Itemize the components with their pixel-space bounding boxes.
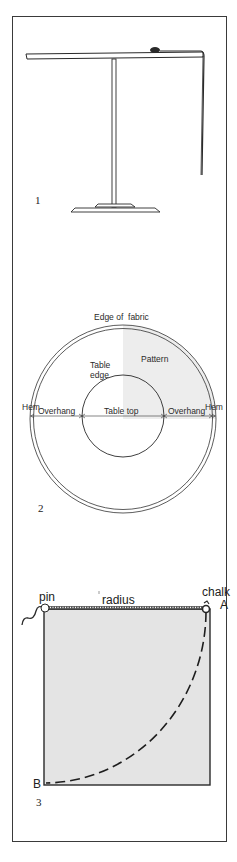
- label-point-b: B: [33, 777, 41, 791]
- label-point-a: A: [220, 598, 228, 612]
- label-overhang-left: Overhang: [38, 406, 76, 416]
- label-edge-of-fabric: Edge of fabric: [94, 312, 150, 322]
- label-table-edge-2: edge: [90, 370, 109, 380]
- weight-icon: [150, 47, 160, 53]
- label-pin: pin: [39, 590, 55, 604]
- figure-3-quarter-pattern: pin radius chalk A B 3: [22, 585, 231, 808]
- chalk-icon: [203, 606, 210, 613]
- tape-measure-shape: [160, 51, 204, 175]
- label-overhang-right: Overhang: [168, 406, 206, 416]
- table-base-lower: [71, 208, 160, 212]
- diagram-canvas: 1 Edge of fabric Pattern Table edge Hem …: [0, 0, 237, 862]
- figure-2-circle-pattern: Edge of fabric Pattern Table edge Hem Ov…: [22, 312, 223, 514]
- table-stem-shape: [112, 59, 116, 207]
- pin-icon: [41, 604, 49, 612]
- label-chalk: chalk: [202, 585, 231, 599]
- label-radius: radius: [102, 593, 135, 607]
- pattern-quadrant-shape: [123, 325, 216, 419]
- table-base-upper: [95, 204, 135, 207]
- figure-number-3: 3: [36, 796, 42, 808]
- figure-number-2: 2: [38, 502, 44, 514]
- figure-1-table: 1: [26, 47, 204, 212]
- label-hem-right: Hem: [205, 402, 223, 412]
- label-pattern: Pattern: [141, 354, 169, 364]
- label-table-top: Table top: [104, 406, 139, 416]
- label-table-edge-1: Table: [90, 360, 111, 370]
- table-top-shape: [26, 52, 203, 59]
- figure-number-1: 1: [35, 194, 41, 206]
